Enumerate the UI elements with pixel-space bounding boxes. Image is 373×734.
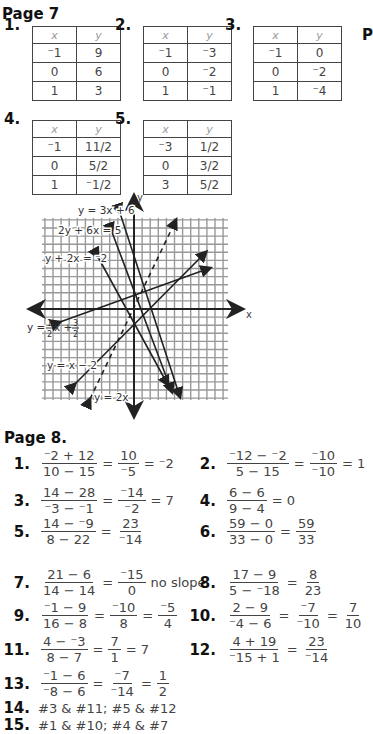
problem: 5.14 − ⁻98 − 22=23⁻14 <box>0 516 147 547</box>
problem-number: 5. <box>0 523 30 541</box>
expression-text: = <box>101 524 112 539</box>
line-label: y = x − 2 <box>47 359 97 371</box>
problem: 12.4 + 19⁻15 + 1=23⁻14 <box>186 634 333 665</box>
problem: 7.21 − 614 − 14=⁻150no slope <box>0 567 207 598</box>
answer-line14: 14.#3 & #11; #5 & #12 <box>0 699 177 717</box>
problem-number: 2. <box>186 455 216 473</box>
problem-number: 11. <box>0 641 30 659</box>
svg-text:2: 2 <box>47 330 52 339</box>
problem: 6.59 − 033 − 0=5933 <box>186 516 319 547</box>
expression-text: = <box>287 575 298 590</box>
page8-title: Page 8. <box>4 429 67 447</box>
fraction: 23⁻14 <box>303 634 330 665</box>
problem-number: 3. <box>0 492 30 510</box>
expression-text: = <box>280 524 291 539</box>
line-label: y = 3x + 6 <box>78 204 135 216</box>
fraction: 5933 <box>296 516 317 547</box>
problem: 9.⁻1 − 916 − 8=⁻108=⁻54 <box>0 600 180 631</box>
expression-text: = <box>279 608 290 623</box>
fraction: ⁻54 <box>158 600 177 631</box>
line-label: 2y + 6x = 5 <box>58 224 121 236</box>
fraction: 2 − 9⁻4 − 6 <box>227 600 274 631</box>
problem-number: 6. <box>186 523 216 541</box>
problem: 11.4 − ⁻38 − 7=71= 7 <box>0 634 151 665</box>
expression-text: = <box>102 456 113 471</box>
expression-text: = 1 <box>342 456 365 471</box>
problem: 4.6 − 69 − 4= 0 <box>186 485 297 516</box>
problem-number: 10. <box>186 607 216 625</box>
fraction: 23⁻14 <box>117 516 144 547</box>
x-axis-label: x <box>246 309 252 320</box>
fraction: 4 − ⁻38 − 7 <box>41 634 88 665</box>
expression-text: = 0 <box>272 493 295 508</box>
fraction: 6 − 69 − 4 <box>227 485 267 516</box>
y-axis-label: y <box>137 192 143 203</box>
problem-number: 1. <box>0 455 30 473</box>
problem: 1.⁻2 + 1210 − 15=10⁻5= ⁻2 <box>0 448 176 479</box>
expression-text: = <box>94 608 105 623</box>
problem: 8.17 − 95 − ⁻18=823 <box>186 567 326 598</box>
fraction: ⁻2 + 1210 − 15 <box>41 448 97 479</box>
graph: xyy = 3x + 62y + 6x = 5y + 2x = ⁻2y =12x… <box>0 0 370 430</box>
problem-number: 7. <box>0 574 30 592</box>
problem: 10.2 − 9⁻4 − 6=⁻7⁻10=710 <box>186 600 366 631</box>
expression-text: = ⁻2 <box>144 456 174 471</box>
fraction: 14 − 28⁻3 − ⁻1 <box>41 485 97 516</box>
expression-text: = <box>102 575 113 590</box>
fraction: ⁻150 <box>118 567 145 598</box>
fraction: 59 − 033 − 0 <box>227 516 275 547</box>
expression-text: = <box>141 676 152 691</box>
fraction: 710 <box>343 600 364 631</box>
expression-text: = 7 <box>151 493 174 508</box>
fraction: ⁻10⁻10 <box>310 448 337 479</box>
svg-text:2: 2 <box>73 330 78 339</box>
problem: 13.⁻1 − 6⁻8 − 6=⁻7⁻14=12 <box>0 668 172 699</box>
expression-text: = <box>93 676 104 691</box>
fraction: 21 − 614 − 14 <box>41 567 97 598</box>
problem-number: 9. <box>0 607 30 625</box>
fraction: ⁻108 <box>110 600 137 631</box>
problem: 2.⁻12 − ⁻25 − 15=⁻10⁻10= 1 <box>186 448 367 479</box>
fraction: ⁻7⁻14 <box>108 668 135 699</box>
expression-text: = <box>287 642 298 657</box>
svg-text:1: 1 <box>47 319 52 328</box>
problem-number: 4. <box>186 492 216 510</box>
problem-number: 13. <box>0 675 30 693</box>
problem-number: 12. <box>186 641 216 659</box>
line-label: y = 2x <box>94 391 129 403</box>
fraction: ⁻14⁻2 <box>118 485 145 516</box>
expression-text: = <box>327 608 338 623</box>
fraction: ⁻12 − ⁻25 − 15 <box>227 448 289 479</box>
problem-number: 8. <box>186 574 216 592</box>
expression-text: = <box>102 493 113 508</box>
problem: 3.14 − 28⁻3 − ⁻1=⁻14⁻2= 7 <box>0 485 176 516</box>
expression-text: = <box>294 456 305 471</box>
svg-text:x +: x + <box>54 321 72 333</box>
answer-line15: 15.#1 & #10; #4 & #7 <box>0 716 168 734</box>
fraction: 14 − ⁻98 − 22 <box>41 516 96 547</box>
fraction: ⁻7⁻10 <box>294 600 321 631</box>
fraction: 71 <box>108 634 120 665</box>
fraction: 17 − 95 − ⁻18 <box>227 567 282 598</box>
svg-text:3: 3 <box>73 319 78 328</box>
fraction: 12 <box>157 668 169 699</box>
fraction: 4 + 19⁻15 + 1 <box>227 634 282 665</box>
fraction: 823 <box>303 567 324 598</box>
line-label: y = <box>27 321 45 333</box>
line-label: y + 2x = ⁻2 <box>45 252 107 264</box>
expression-text: = <box>93 642 104 657</box>
fraction: ⁻1 − 916 − 8 <box>41 600 89 631</box>
expression-text: = <box>142 608 153 623</box>
fraction: ⁻1 − 6⁻8 − 6 <box>41 668 88 699</box>
expression-text: = 7 <box>126 642 149 657</box>
fraction: 10⁻5 <box>118 448 139 479</box>
